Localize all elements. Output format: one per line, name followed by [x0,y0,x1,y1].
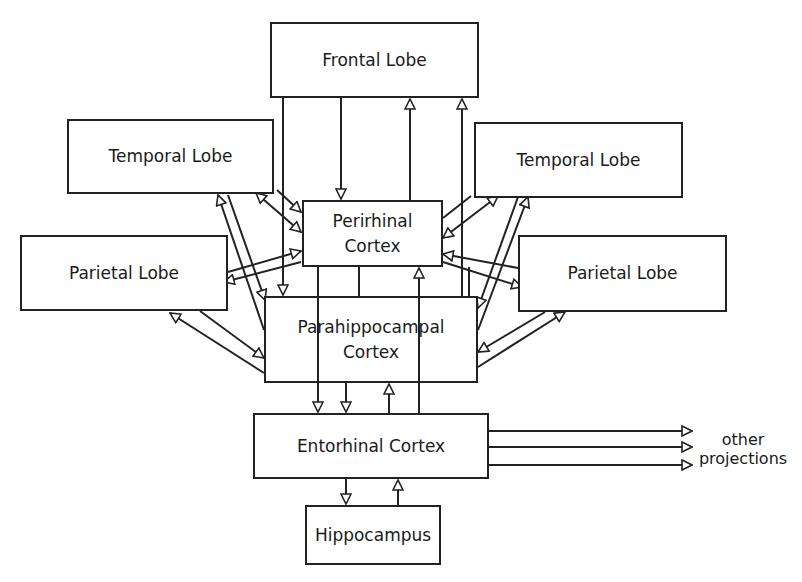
diagram-canvas: Frontal Lobe Temporal Lobe Temporal Lobe… [0,0,802,582]
node-label: Parietal Lobe [567,261,677,286]
node-temporal-lobe-left: Temporal Lobe [67,119,274,194]
node-label: Parietal Lobe [69,261,179,286]
arrow-temporal-right-perirhinal [443,196,498,238]
node-label: Hippocampus [315,523,431,548]
arrow-parietal-left-parahippocampal [200,311,264,358]
node-temporal-lobe-right: Temporal Lobe [474,122,683,198]
node-label: Temporal Lobe [108,144,232,169]
arrow-temporal-left-perirhinal [256,193,301,232]
node-frontal-lobe: Frontal Lobe [270,22,479,98]
node-parahippocampal-cortex: Parahippocampal Cortex [264,296,478,383]
node-label: Temporal Lobe [516,148,640,173]
node-label: Frontal Lobe [322,48,426,73]
other-projections-label: other projections [693,430,793,468]
node-parietal-lobe-right: Parietal Lobe [518,235,727,312]
node-label: Parahippocampal Cortex [297,315,444,365]
node-hippocampus: Hippocampus [305,505,441,565]
node-label: Entorhinal Cortex [297,434,445,459]
node-label: Perirhinal Cortex [333,209,413,259]
node-parietal-lobe-left: Parietal Lobe [20,235,228,311]
node-perirhinal-cortex: Perirhinal Cortex [302,200,443,267]
node-entorhinal-cortex: Entorhinal Cortex [253,413,489,479]
